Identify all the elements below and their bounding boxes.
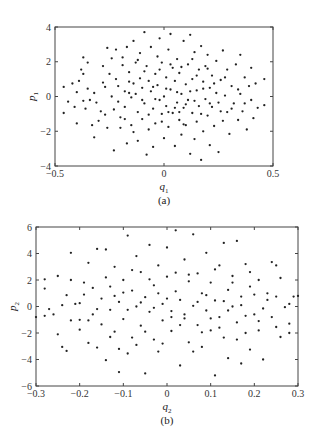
data-point	[128, 81, 130, 83]
data-point	[192, 305, 194, 307]
data-point	[175, 272, 177, 274]
data-point	[178, 72, 180, 74]
data-point	[192, 233, 194, 235]
data-point	[174, 145, 176, 147]
data-point	[179, 299, 181, 301]
data-point	[82, 56, 84, 58]
data-point	[201, 292, 203, 294]
data-point	[79, 319, 81, 321]
data-point	[70, 319, 72, 321]
data-point	[93, 92, 95, 94]
y-axis-label-subscript: 2	[13, 302, 21, 306]
data-point	[169, 63, 171, 65]
data-point	[224, 94, 226, 96]
data-point	[143, 70, 145, 72]
data-point	[132, 40, 134, 42]
data-point	[237, 119, 239, 121]
data-point	[44, 315, 46, 317]
data-point	[288, 323, 290, 325]
data-point	[275, 264, 277, 266]
y-axis-label-subscript: 1	[32, 92, 40, 96]
data-point	[97, 120, 99, 122]
data-point	[178, 119, 180, 121]
data-point	[167, 48, 169, 50]
data-point	[73, 106, 75, 108]
data-point	[157, 264, 159, 266]
data-point	[158, 99, 160, 101]
data-point	[135, 305, 137, 307]
data-point	[141, 118, 143, 120]
data-point	[236, 321, 238, 323]
data-point	[82, 73, 84, 75]
data-point	[262, 307, 264, 309]
data-point	[119, 116, 121, 118]
data-point	[165, 105, 167, 107]
data-point	[141, 99, 143, 101]
data-point	[226, 111, 228, 113]
data-point	[67, 101, 69, 103]
y-tick-label: −6	[21, 381, 32, 392]
data-point	[206, 54, 208, 56]
data-point	[217, 101, 219, 103]
data-point	[178, 111, 180, 113]
data-point	[79, 302, 81, 304]
data-point	[108, 73, 110, 75]
data-point	[266, 299, 268, 301]
data-point	[233, 102, 235, 104]
data-point	[154, 122, 156, 124]
data-point	[109, 309, 111, 311]
data-point	[292, 295, 294, 297]
data-point	[215, 60, 217, 62]
data-point	[145, 154, 147, 156]
data-point	[44, 287, 46, 289]
data-point	[140, 325, 142, 327]
data-point	[144, 372, 146, 374]
data-point	[148, 128, 150, 130]
data-point	[275, 326, 277, 328]
data-point	[148, 311, 150, 313]
data-point	[189, 153, 191, 155]
data-point	[210, 329, 212, 331]
data-point	[78, 80, 80, 82]
data-point	[206, 68, 208, 70]
data-point	[153, 284, 155, 286]
data-point	[118, 371, 120, 373]
data-point	[231, 281, 233, 283]
data-point	[183, 317, 185, 319]
data-point	[172, 67, 174, 69]
data-point	[169, 33, 171, 35]
x-tick-label: 0	[165, 388, 170, 399]
data-point	[132, 82, 134, 84]
data-point	[214, 268, 216, 270]
data-point	[61, 304, 63, 306]
data-point	[96, 346, 98, 348]
data-point	[57, 333, 59, 335]
data-point	[223, 300, 225, 302]
data-point	[111, 57, 113, 59]
data-point	[102, 81, 104, 83]
data-point	[145, 65, 147, 67]
data-point	[117, 101, 119, 103]
data-point	[244, 315, 246, 317]
data-point	[71, 82, 73, 84]
panel-caption: (b)	[161, 414, 174, 427]
data-point	[154, 73, 156, 75]
data-point	[174, 107, 176, 109]
data-point	[157, 292, 159, 294]
data-point	[227, 357, 229, 359]
data-point	[204, 98, 206, 100]
data-point	[196, 74, 198, 76]
x-tick-label: −0.2	[71, 388, 89, 399]
data-point	[161, 121, 163, 123]
data-point	[122, 291, 124, 293]
data-point	[161, 303, 163, 305]
data-point	[205, 252, 207, 254]
data-point	[249, 348, 251, 350]
data-point	[263, 78, 265, 80]
data-point	[218, 264, 220, 266]
data-point	[158, 37, 160, 39]
data-point	[227, 289, 229, 291]
data-point	[271, 316, 273, 318]
data-point	[84, 108, 86, 110]
data-point	[124, 106, 126, 108]
